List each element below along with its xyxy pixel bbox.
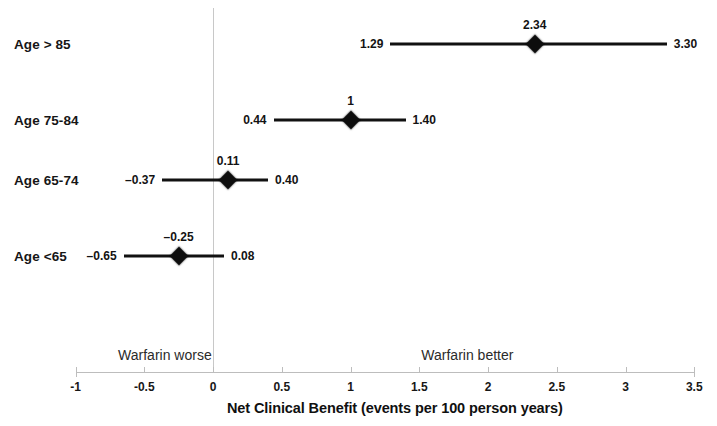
x-axis-tick: [282, 367, 283, 372]
point-estimate-label-3: –0.25: [164, 230, 194, 244]
confidence-interval-bar-2: [162, 179, 268, 182]
confidence-interval-bar-1: [274, 119, 406, 122]
x-axis-tick-label: 2.5: [548, 380, 565, 394]
x-axis-endcap-left: [76, 372, 77, 377]
x-axis-tick-label: 0.5: [273, 380, 290, 394]
x-axis-tick: [144, 367, 145, 372]
point-estimate-marker-3: [169, 247, 187, 265]
zero-reference-line: [213, 8, 214, 372]
ci-low-label-1: 0.44: [243, 113, 266, 127]
annotation-left: Warfarin worse: [118, 347, 212, 363]
x-axis-endcap-right: [694, 372, 695, 377]
annotation-right: Warfarin better: [421, 347, 513, 363]
ci-low-label-3: –0.65: [87, 249, 117, 263]
x-axis-tick: [557, 367, 558, 372]
x-axis-tick: [213, 367, 214, 372]
x-axis-tick: [419, 367, 420, 372]
x-axis-title: Net Clinical Benefit (events per 100 per…: [227, 400, 563, 416]
x-axis-tick: [694, 367, 695, 372]
x-axis-tick: [488, 367, 489, 372]
category-label-1: Age 75-84: [14, 113, 79, 128]
x-axis-tick: [351, 367, 352, 372]
x-axis-tick-label: 1: [347, 380, 354, 394]
x-axis-tick-label: -1: [70, 380, 81, 394]
x-axis-tick: [76, 367, 77, 372]
forest-plot: Age > 851.293.302.34Age 75-840.441.401Ag…: [0, 0, 717, 426]
point-estimate-marker-0: [526, 35, 544, 53]
ci-high-label-2: 0.40: [275, 173, 298, 187]
category-label-2: Age 65-74: [14, 173, 79, 188]
point-estimate-label-1: 1: [347, 94, 354, 108]
point-estimate-label-2: 0.11: [217, 154, 240, 168]
point-estimate-marker-2: [219, 171, 237, 189]
category-label-3: Age <65: [14, 249, 67, 264]
point-estimate-label-0: 2.34: [523, 18, 546, 32]
x-axis-tick-label: 3.5: [686, 380, 703, 394]
x-axis-tick-label: -0.5: [134, 380, 155, 394]
x-axis-line: [76, 372, 695, 373]
ci-low-label-2: –0.37: [125, 173, 155, 187]
ci-high-label-3: 0.08: [231, 249, 254, 263]
ci-high-label-0: 3.30: [674, 37, 697, 51]
ci-low-label-0: 1.29: [360, 37, 383, 51]
x-axis-tick-label: 0: [210, 380, 217, 394]
category-label-0: Age > 85: [14, 37, 71, 52]
x-axis-tick-label: 2: [485, 380, 492, 394]
ci-high-label-1: 1.40: [413, 113, 436, 127]
point-estimate-marker-1: [341, 111, 359, 129]
x-axis-tick-label: 1.5: [411, 380, 428, 394]
x-axis-tick: [626, 367, 627, 372]
x-axis-tick-label: 3: [622, 380, 629, 394]
